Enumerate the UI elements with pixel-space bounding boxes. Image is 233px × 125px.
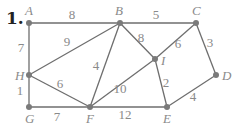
node-i bbox=[152, 56, 158, 62]
node-label: A bbox=[24, 3, 33, 18]
node-h bbox=[26, 72, 32, 78]
edge-weight: 9 bbox=[64, 34, 71, 49]
node-label: D bbox=[221, 68, 232, 83]
node-g bbox=[26, 104, 32, 110]
edge-weight: 8 bbox=[138, 30, 145, 45]
edge-weight: 8 bbox=[69, 7, 76, 22]
node-a bbox=[26, 20, 32, 26]
edge-weight: 4 bbox=[93, 58, 100, 73]
node-label: B bbox=[115, 3, 123, 18]
edge-weight: 10 bbox=[114, 81, 127, 96]
edge-h-b bbox=[29, 23, 120, 75]
edge-weight: 5 bbox=[153, 7, 160, 22]
edge-weight: 7 bbox=[18, 40, 25, 55]
edge-weight: 12 bbox=[119, 107, 132, 122]
problem-number: 1. bbox=[6, 8, 24, 28]
edge-weight: 1 bbox=[17, 83, 24, 98]
node-f bbox=[87, 104, 93, 110]
edge-weight: 4 bbox=[190, 89, 197, 104]
node-d bbox=[213, 72, 219, 78]
node-label: I bbox=[160, 53, 166, 68]
node-label: H bbox=[14, 68, 25, 83]
edge-weight: 6 bbox=[57, 76, 64, 91]
edge-weight: 3 bbox=[207, 35, 214, 50]
node-label: C bbox=[192, 3, 201, 18]
node-e bbox=[164, 104, 170, 110]
edge-weight: 7 bbox=[54, 109, 61, 124]
edge-weight: 6 bbox=[175, 36, 182, 51]
node-b bbox=[117, 20, 123, 26]
node-label: F bbox=[85, 111, 95, 125]
node-label: E bbox=[162, 111, 171, 125]
weighted-graph: 85798634617102124 ABCIDEFGH bbox=[0, 0, 233, 125]
graph-diagram: 1. 85798634617102124 ABCIDEFGH bbox=[0, 0, 233, 125]
node-c bbox=[193, 20, 199, 26]
edge-weight: 2 bbox=[163, 75, 170, 90]
node-label: G bbox=[25, 111, 35, 125]
